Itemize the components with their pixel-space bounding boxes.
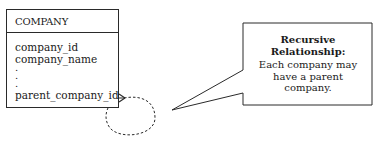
attribute-parent-company-id: parent_company_id [15,89,118,101]
callout-annotation: Recursive Relationship: Each company may… [243,23,373,105]
crows-foot-icon [119,94,125,102]
callout-title-line: Relationship: [243,46,373,58]
attribute-company-name: company_name [15,53,118,65]
company-entity: COMPANY company_id company_name . . . pa… [6,9,119,108]
attribute-list: company_id company_name . . . parent_com… [7,33,118,101]
callout-body: Each company may have a parent company. [243,59,373,94]
ellipsis-dot: . [15,65,118,73]
callout-body-line: Each company may [243,59,373,71]
callout-title-line: Recursive [243,34,373,46]
callout-body-line: company. [243,82,373,94]
ellipsis-dot: . [15,81,118,89]
callout-title: Recursive Relationship: [243,34,373,57]
attribute-company-id: company_id [15,41,118,53]
entity-name: COMPANY [7,10,118,33]
callout-body-line: have a parent [243,71,373,83]
ellipsis-dot: . [15,73,118,81]
